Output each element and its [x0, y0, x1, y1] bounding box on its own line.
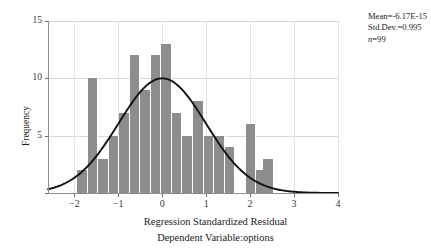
x-tick-label: 1: [186, 199, 226, 209]
x-axis-title: Regression Standardized Residual: [0, 216, 431, 227]
dependent-variable-label: Dependent Variable:options: [0, 232, 431, 243]
x-tick-label: 4: [318, 199, 358, 209]
y-tick-mark: [45, 136, 48, 137]
stats-n-value: =99: [372, 34, 385, 44]
y-tick-label: 5: [37, 131, 42, 141]
histogram-chart: Mean=-6.17E-15 Std.Dev.=0.995 n=99 Frequ…: [0, 0, 431, 251]
x-tick-mark: [206, 194, 207, 197]
x-tick-mark: [250, 194, 251, 197]
x-tick-label: 2: [230, 199, 270, 209]
x-tick-mark: [162, 194, 163, 197]
y-axis-line: [48, 21, 49, 193]
stats-n: n=99: [368, 34, 427, 45]
plot-area: [48, 21, 338, 193]
x-tick-mark: [294, 194, 295, 197]
y-tick-label: 10: [33, 73, 43, 83]
x-tick-mark: [338, 194, 339, 197]
x-tick-label: 3: [274, 199, 314, 209]
stats-stddev: Std.Dev.=0.995: [368, 22, 427, 33]
x-tick-mark: [118, 194, 119, 197]
stats-annotation: Mean=-6.17E-15 Std.Dev.=0.995 n=99: [368, 11, 427, 45]
y-tick-label: 15: [33, 16, 43, 26]
y-tick-mark: [45, 78, 48, 79]
y-tick-mark: [45, 21, 48, 22]
x-tick-mark: [74, 194, 75, 197]
normal-distribution-curve: [48, 21, 338, 193]
y-axis-title: Frequency: [21, 105, 31, 145]
stats-mean: Mean=-6.17E-15: [368, 11, 427, 22]
x-tick-label: −1: [98, 199, 138, 209]
x-tick-label: 0: [142, 199, 182, 209]
y-tick-mark: [45, 193, 48, 194]
gridline-vertical: [338, 21, 339, 193]
x-tick-label: −2: [54, 199, 94, 209]
